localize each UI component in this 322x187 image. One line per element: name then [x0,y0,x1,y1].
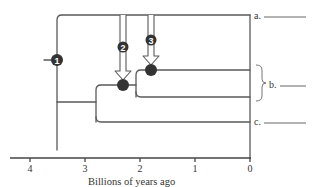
tick-label-4: 4 [28,164,33,174]
svg-text:3: 3 [148,36,153,46]
tick-label-1: 1 [193,164,198,174]
branch-c [96,117,250,122]
branch-b-lower [136,92,250,97]
bracket-b [256,65,266,101]
tick-label-2: 2 [138,164,143,174]
node-2-marker: 2 [118,42,129,53]
tree-canvas: 1 2 3 [0,0,322,187]
tick-label-0: 0 [248,164,253,174]
node-3-marker: 3 [146,35,157,46]
phylogenetic-tree-figure: 1 2 3 a. b. c. 4 3 2 [0,0,322,187]
svg-text:1: 1 [54,56,59,66]
tick-label-3: 3 [83,164,88,174]
tip-label-b: b. [269,80,277,90]
tip-label-c: c. [254,117,261,127]
branch-clade-vertical [96,85,123,122]
node-2-dot [117,79,129,91]
axis-title: Billions of years ago [88,177,175,187]
node-3-dot [145,64,157,76]
node-1-marker: 1 [51,54,63,66]
svg-text:2: 2 [120,43,125,53]
tip-label-a: a. [254,11,261,21]
